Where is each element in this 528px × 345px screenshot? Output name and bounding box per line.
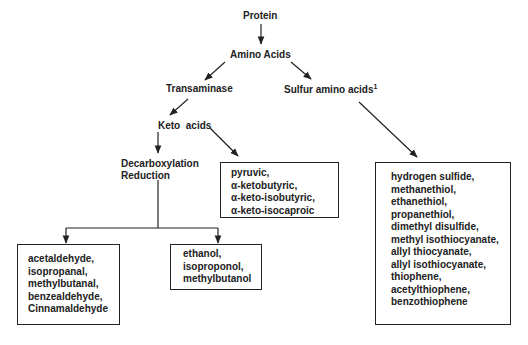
arrow-transaminase-to-keto [170,99,188,115]
box-aldehydes: acetaldehyde, isopropanal, methylbutanal… [17,244,120,325]
node-transaminase: Transaminase [166,83,233,94]
list-item: isopropanal, [28,266,119,279]
list-item: benzothiophene [391,296,510,309]
footnote-marker: 1 [373,83,377,90]
list-item: methylbutanal, [28,278,119,291]
node-keto-acids: Keto acids [158,120,211,131]
node-protein: Protein [243,10,277,21]
list-item: pyruvic, [231,167,338,180]
list-item: methylbutanol [183,273,261,286]
list-item: acetylthiophene, [391,284,510,297]
list-item: hydrogen sulfide, [391,171,510,184]
list-item: α-keto-isocaproic [231,205,338,218]
arrow-sulfur-to-compounds [359,102,417,157]
arrow-keto-to-keto-products [210,128,238,156]
sulfur-amino-acids-label: Sulfur amino acids [284,84,373,95]
arrow-amino-to-transaminase [205,62,225,80]
list-item: acetaldehyde, [28,253,119,266]
list-item: Cinnamaldehyde [28,303,119,316]
node-amino-acids: Amino Acids [230,49,291,60]
list-item: ethanethiol, [391,196,510,209]
list-item: methyl isothiocyanate, [391,234,510,247]
box-keto-products: pyruvic, α-ketobutyric, α-keto-isobutyri… [220,162,339,218]
list-item: benzealdehyde, [28,291,119,304]
list-item: isoproponol, [183,261,261,274]
list-item: methanethiol, [391,184,510,197]
box-sulfur-compounds: hydrogen sulfide, methanethiol, ethaneth… [375,162,511,325]
arrow-amino-to-sulfur [291,62,311,79]
node-reduction: Reduction [121,170,170,181]
list-item: propanethiol, [391,209,510,222]
list-item: α-keto-isobutyric, [231,192,338,205]
list-item: ethanol, [183,248,261,261]
list-item: dimethyl disulfide, [391,221,510,234]
list-item: allyl isothiocyanate, [391,259,510,272]
list-item: allyl thiocyanate, [391,246,510,259]
list-item: thiophene, [391,271,510,284]
box-alcohols: ethanol, isoproponol, methylbutanol [170,244,262,290]
node-decarboxylation: Decarboxylation [121,158,199,169]
node-sulfur-amino-acids: Sulfur amino acids1 [284,83,377,95]
list-item: α-ketobutyric, [231,180,338,193]
